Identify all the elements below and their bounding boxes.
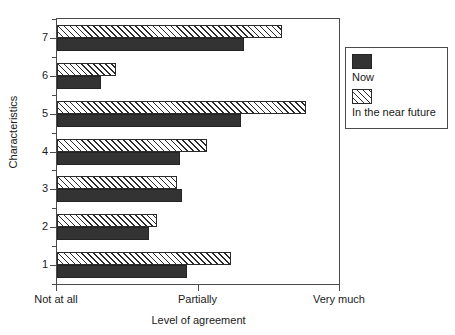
y-axis-tick-label: 1 xyxy=(22,259,48,270)
legend-label-future: In the near future xyxy=(352,106,442,119)
y-axis-title: Characteristics xyxy=(7,72,19,192)
legend-swatch-future-icon xyxy=(352,89,372,104)
y-axis-tick xyxy=(50,114,56,115)
x-axis-tick-label: Not at all xyxy=(11,293,101,306)
y-axis-tick xyxy=(50,38,56,39)
y-axis-tick-label: 7 xyxy=(22,32,48,43)
y-axis-minor-tick xyxy=(52,133,56,134)
x-axis-tick xyxy=(198,285,199,291)
y-axis-tick-label: 6 xyxy=(22,70,48,81)
legend: Now In the near future xyxy=(345,47,448,129)
y-axis-minor-tick xyxy=(52,95,56,96)
y-axis-tick xyxy=(50,76,56,77)
x-axis-tick-labels: Not at allPartiallyVery much xyxy=(0,293,455,309)
bar-in-the-near-future xyxy=(57,252,231,265)
y-axis-tick xyxy=(50,152,56,153)
y-axis-tick-label: 4 xyxy=(22,146,48,157)
y-axis-tick xyxy=(50,227,56,228)
legend-swatch-now-icon xyxy=(352,54,372,69)
x-axis-tick-label: Very much xyxy=(294,293,384,306)
y-axis-ticks xyxy=(50,18,56,285)
bar-now xyxy=(57,265,187,278)
bar-chart-figure: 7654321 Characteristics Not at allPartia… xyxy=(0,0,455,335)
y-axis-minor-tick xyxy=(52,57,56,58)
bars-layer xyxy=(57,19,340,284)
y-axis-tick-label: 2 xyxy=(22,221,48,232)
y-axis-tick xyxy=(50,189,56,190)
legend-label-now: Now xyxy=(352,71,442,84)
y-axis-minor-tick xyxy=(52,170,56,171)
y-axis-minor-tick xyxy=(52,246,56,247)
y-axis-tick-label: 3 xyxy=(22,183,48,194)
y-axis-minor-tick xyxy=(52,19,56,20)
y-axis-tick-label: 5 xyxy=(22,108,48,119)
x-axis-tick xyxy=(339,285,340,291)
x-axis-tick xyxy=(56,285,57,291)
y-axis-tick xyxy=(50,265,56,266)
y-axis-tick-labels: 7654321 xyxy=(20,18,48,285)
y-axis-minor-tick xyxy=(52,208,56,209)
x-axis-ticks xyxy=(56,285,341,291)
x-axis-title: Level of agreement xyxy=(56,314,341,326)
x-axis-tick-label: Partially xyxy=(153,293,243,306)
bar-group xyxy=(57,19,340,284)
